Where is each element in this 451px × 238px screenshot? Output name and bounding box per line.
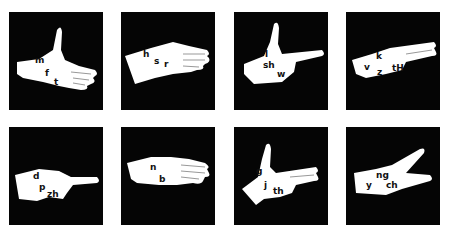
- sound-label: m: [35, 56, 44, 65]
- sound-label: d: [33, 172, 39, 181]
- hand-panel-8: ng y ch: [346, 127, 440, 225]
- sound-label: r: [164, 60, 168, 69]
- sound-label: j: [264, 181, 267, 190]
- hand-v-fingers-icon: [346, 127, 440, 225]
- sound-label: l: [265, 50, 268, 59]
- hand-index-pointing-icon: [9, 127, 103, 225]
- sound-label: s: [154, 57, 159, 66]
- sound-label: g: [256, 167, 262, 176]
- sound-label: n: [150, 163, 156, 172]
- sound-label: ch: [386, 181, 398, 190]
- hand-panel-7: g j th: [234, 127, 328, 225]
- sound-label: tH: [392, 64, 404, 73]
- sound-label: h: [143, 50, 149, 59]
- hand-panel-6: n b: [121, 127, 215, 225]
- sound-label: k: [376, 52, 382, 61]
- hand-two-fingers-thumb-icon: [234, 127, 328, 225]
- sound-label: z: [377, 68, 382, 77]
- sound-label: ng: [376, 171, 389, 180]
- hand-two-fingers-together-icon: [346, 12, 440, 110]
- sound-label: sh: [263, 61, 275, 70]
- hand-thumb-up-open-icon: [9, 12, 103, 110]
- sound-label: zh: [47, 190, 59, 199]
- sound-label: b: [159, 175, 165, 184]
- hand-panel-1: m f t: [9, 12, 103, 110]
- hand-four-fingers-icon: [121, 127, 215, 225]
- sound-label: f: [45, 69, 49, 78]
- sound-label: p: [39, 183, 45, 192]
- sound-label: w: [277, 70, 285, 79]
- hand-panel-3: l sh w: [234, 12, 328, 110]
- hand-index-thumb-icon: [234, 12, 328, 110]
- sound-label: v: [364, 63, 370, 72]
- sound-label: th: [273, 187, 284, 196]
- sound-label: y: [366, 181, 372, 190]
- hand-panel-4: k v z tH: [346, 12, 440, 110]
- hand-panel-2: h s r: [121, 12, 215, 110]
- sound-label: t: [54, 78, 58, 87]
- hand-panel-5: d p zh: [9, 127, 103, 225]
